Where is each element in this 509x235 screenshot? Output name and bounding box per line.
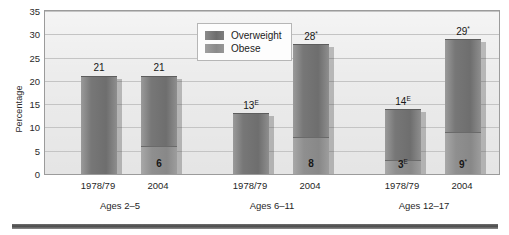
bar-obese-label: 3E (380, 158, 426, 170)
bar-total-label: 28* (288, 30, 334, 42)
x-axis-tick: 1978/79 (66, 180, 130, 191)
bar-shadow (481, 42, 486, 174)
bar-segment-overweight (293, 44, 329, 137)
y-axis-tick: 20 (12, 75, 40, 86)
bar-shadow (269, 116, 274, 174)
bar-obese-label: 8 (288, 158, 334, 169)
gridline (45, 11, 499, 12)
bar-total-label: 14E (380, 95, 426, 107)
bar-obese-label: 9* (440, 158, 486, 170)
legend-label-obese: Obese (231, 43, 260, 54)
bar (81, 76, 117, 174)
x-axis-tick: 1978/79 (218, 180, 282, 191)
y-axis-tick: 5 (12, 145, 40, 156)
bar-shadow (329, 47, 334, 174)
bar-segment-overweight (141, 76, 177, 146)
y-axis-tick: 0 (12, 169, 40, 180)
x-axis-tick: 2004 (126, 180, 190, 191)
y-axis-tick: 30 (12, 29, 40, 40)
bar (445, 39, 481, 174)
bar-total-label: 21 (76, 62, 122, 73)
x-axis-tick: 2004 (278, 180, 342, 191)
legend-swatch-obese (205, 44, 224, 53)
x-axis-group-label: Ages 12–17 (349, 200, 499, 211)
bar (293, 44, 329, 174)
legend-item-overweight: Overweight (205, 30, 282, 41)
bar-total-label: 13E (228, 99, 274, 111)
y-axis-tick: 35 (12, 6, 40, 17)
x-axis-tick: 2004 (430, 180, 494, 191)
legend-item-obese: Obese (205, 43, 282, 54)
bar-segment-overweight (233, 113, 269, 174)
legend-label-overweight: Overweight (231, 30, 282, 41)
y-axis: 35302520151050 (10, 0, 40, 235)
bar-segment-overweight (81, 76, 117, 174)
bar-shadow (117, 79, 122, 174)
legend-swatch-overweight (205, 31, 224, 40)
bar-total-label: 21 (136, 62, 182, 73)
x-axis-tick: 1978/79 (370, 180, 434, 191)
y-axis-tick: 15 (12, 99, 40, 110)
chart-container: Percentage 35302520151050 2121613E28*814… (0, 0, 509, 235)
plot-area: 2121613E28*814E3E29*9* Overweight Obese (44, 10, 500, 175)
legend: Overweight Obese (197, 23, 292, 61)
x-axis-group-label: Ages 2–5 (45, 200, 195, 211)
bar-segment-overweight (445, 39, 481, 132)
x-axis-group-label: Ages 6–11 (197, 200, 347, 211)
y-axis-tick: 25 (12, 52, 40, 63)
bar (233, 113, 269, 174)
bar-segment-overweight (385, 109, 421, 160)
bottom-rule (12, 224, 498, 229)
bar-total-label: 29* (440, 25, 486, 37)
bar-obese-label: 6 (136, 158, 182, 169)
y-axis-tick: 10 (12, 122, 40, 133)
